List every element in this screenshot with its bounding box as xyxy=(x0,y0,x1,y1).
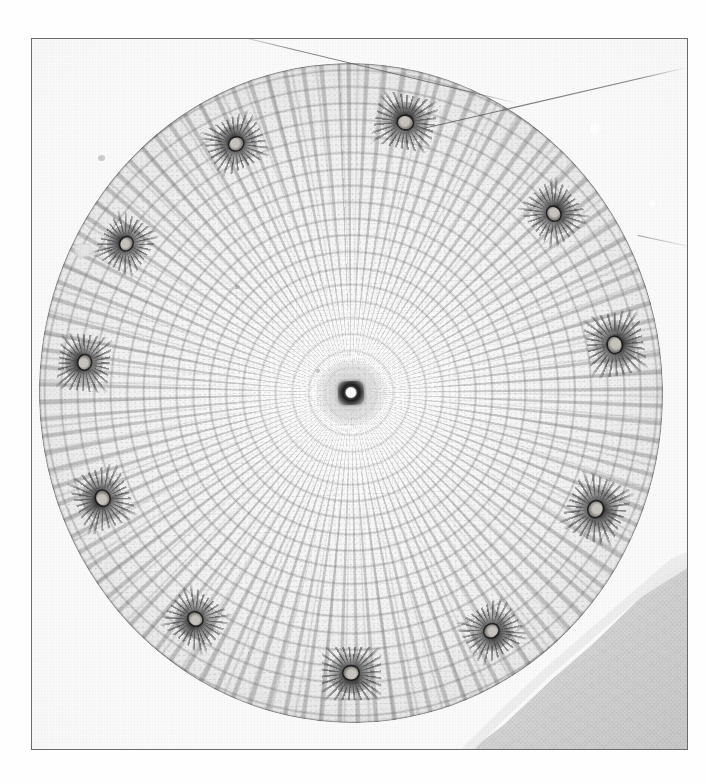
speck-upper-left xyxy=(98,155,105,161)
fleck-mid-left xyxy=(235,285,240,289)
bubble-upper-right xyxy=(588,123,602,135)
bubble-left xyxy=(74,244,92,257)
central-canal xyxy=(338,381,365,406)
photographic-plate xyxy=(0,0,706,784)
plate-frame xyxy=(31,38,688,750)
bubble-right xyxy=(648,199,657,207)
fleck-lower-left xyxy=(316,369,320,373)
